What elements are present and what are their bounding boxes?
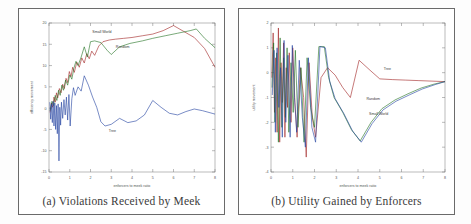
x-tick-label: 0 [270,176,272,180]
series-label: Small World [92,30,111,34]
x-tick-label: 4 [357,176,359,180]
y-tick-label: 0 [267,71,269,75]
series-label: Tree [109,129,116,133]
x-axis-title: enforcers to meek ratio [114,184,151,188]
x-tick-label: 1 [292,176,294,180]
series-label: Small World [369,112,388,116]
y-tick-label: -15 [41,170,46,174]
x-tick-label: 5 [152,176,154,180]
x-tick-label: 3 [110,176,112,180]
y-tick-label: 20 [43,21,47,25]
y-tick-label: -2 [265,121,268,125]
x-tick-label: 1 [69,176,71,180]
y-axis-title: efficiency movement [30,81,34,114]
y-tick-label: 1 [267,46,269,50]
figure-container: 012345678-15-10-505101520enforcers to me… [0,0,471,224]
x-tick-label: 6 [401,176,403,180]
y-tick-label: -4 [265,170,268,174]
series-line [272,40,445,147]
x-tick-label: 2 [314,176,316,180]
x-tick-label: 8 [214,176,216,180]
x-tick-label: 3 [335,176,337,180]
chart-b-canvas: 012345678-4-3-2-1012enforcers to meek ra… [239,9,452,214]
x-tick-label: 5 [379,176,381,180]
panel-b: 012345678-4-3-2-1012enforcers to meek ra… [238,8,455,215]
series-line [50,26,215,113]
y-tick-label: 15 [43,43,47,47]
series-label: Random [366,97,380,101]
x-tick-label: 0 [48,176,50,180]
x-tick-label: 7 [422,176,424,180]
x-axis-title: enforcers to meek ratio [340,184,377,188]
caption-a: (a) Violations Received by Meek [19,195,224,207]
x-tick-label: 4 [131,176,133,180]
y-tick-label: 10 [43,64,47,68]
x-tick-label: 6 [173,176,175,180]
y-tick-label: -3 [265,146,268,150]
series-line [50,76,215,161]
x-tick-label: 7 [193,176,195,180]
y-tick-label: -5 [43,128,46,132]
y-axis-title: utility movement [252,85,256,111]
panel-a: 012345678-15-10-505101520enforcers to me… [18,8,225,215]
y-tick-label: 0 [45,107,47,111]
y-tick-label: -10 [41,149,46,153]
x-tick-label: 8 [444,176,446,180]
y-tick-label: -1 [265,96,268,100]
chart-a-canvas: 012345678-15-10-505101520enforcers to me… [19,9,222,214]
caption-b: (b) Utility Gained by Enforcers [239,195,454,207]
series-label: Tree [384,67,391,71]
series-label: Random [116,45,130,49]
y-tick-label: 5 [45,85,47,89]
x-tick-label: 2 [90,176,92,180]
y-tick-label: 2 [267,21,269,25]
